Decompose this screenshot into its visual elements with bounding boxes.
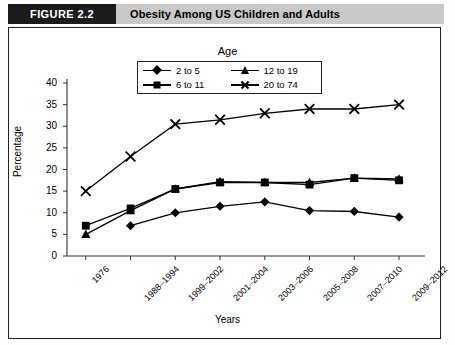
legend-label: 2 to 5 bbox=[175, 65, 200, 76]
y-tick-label: 15 bbox=[35, 185, 57, 196]
y-tick-label: 40 bbox=[35, 77, 57, 88]
legend-label: 6 to 11 bbox=[175, 79, 204, 90]
legend-item-2-to-5: 2 to 5 bbox=[142, 64, 230, 76]
figure-header: FIGURE 2.2 Obesity Among US Children and… bbox=[8, 4, 444, 24]
figure-title: Obesity Among US Children and Adults bbox=[116, 4, 444, 24]
figure-number-tag: FIGURE 2.2 bbox=[8, 4, 116, 24]
y-tick-label: 25 bbox=[35, 142, 57, 153]
y-tick-label: 0 bbox=[35, 250, 57, 261]
legend-label: 20 to 74 bbox=[263, 79, 298, 90]
square-marker-icon bbox=[142, 79, 172, 91]
legend-item-6-to-11: 6 to 11 bbox=[142, 79, 230, 91]
legend-item-12-to-19: 12 to 19 bbox=[230, 64, 318, 76]
y-tick-label: 5 bbox=[35, 228, 57, 239]
legend-item-20-to-74: 20 to 74 bbox=[230, 79, 318, 91]
y-tick-label: 35 bbox=[35, 99, 57, 110]
diamond-marker-icon bbox=[142, 64, 172, 76]
y-tick-label: 30 bbox=[35, 120, 57, 131]
x-marker-icon bbox=[230, 79, 260, 91]
chart-legend: 2 to 5 12 to 19 6 to 11 20 to 74 bbox=[137, 61, 322, 94]
y-axis-title: Percentage bbox=[12, 112, 23, 192]
figure-page: FIGURE 2.2 Obesity Among US Children and… bbox=[0, 0, 455, 345]
x-axis-title: Years bbox=[0, 314, 455, 325]
triangle-marker-icon bbox=[230, 64, 260, 76]
legend-label: 12 to 19 bbox=[263, 65, 298, 76]
y-tick-label: 20 bbox=[35, 164, 57, 175]
legend-title: Age bbox=[0, 45, 455, 57]
y-tick-label: 10 bbox=[35, 207, 57, 218]
